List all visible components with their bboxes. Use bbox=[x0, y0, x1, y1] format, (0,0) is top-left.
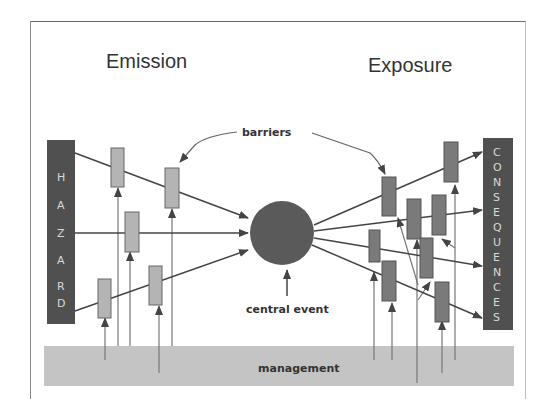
svg-text:O: O bbox=[493, 161, 502, 174]
svg-text:D: D bbox=[57, 297, 65, 310]
barriers-label: barriers bbox=[242, 126, 292, 139]
emission-title: Emission bbox=[106, 50, 187, 72]
barriers-pointer-left bbox=[180, 132, 237, 162]
svg-text:E: E bbox=[493, 251, 500, 264]
svg-text:A: A bbox=[57, 199, 65, 212]
bowtie-diagram: Emission Exposure barriers management H … bbox=[0, 0, 546, 419]
exposure-title: Exposure bbox=[368, 54, 453, 76]
svg-text:S: S bbox=[493, 311, 500, 324]
svg-text:H: H bbox=[57, 171, 65, 184]
svg-text:N: N bbox=[493, 176, 501, 189]
svg-text:E: E bbox=[493, 296, 500, 309]
central-event-circle bbox=[250, 201, 314, 265]
management-label: management bbox=[258, 362, 340, 375]
svg-text:C: C bbox=[493, 281, 501, 294]
svg-text:N: N bbox=[493, 266, 501, 279]
svg-text:C: C bbox=[493, 146, 501, 159]
central-event-label: central event bbox=[246, 303, 329, 316]
svg-text:Z: Z bbox=[57, 227, 65, 240]
hazard-box: H A Z A R D bbox=[47, 140, 75, 324]
consequences-box: C O N S E Q U E N C E S bbox=[483, 138, 513, 330]
svg-text:E: E bbox=[493, 206, 500, 219]
svg-text:Q: Q bbox=[493, 221, 502, 234]
barriers-pointer-right bbox=[312, 133, 385, 174]
svg-text:U: U bbox=[493, 236, 501, 249]
svg-text:R: R bbox=[57, 280, 65, 293]
svg-text:S: S bbox=[493, 191, 500, 204]
svg-text:A: A bbox=[57, 254, 65, 267]
